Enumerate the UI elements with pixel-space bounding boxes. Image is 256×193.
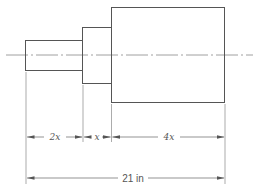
- dimension-label-2x: 2x: [49, 132, 61, 142]
- dimension-total: 21 in: [27, 173, 224, 184]
- dimension-4x: 4x: [113, 132, 225, 142]
- dimension-x: x: [84, 132, 111, 142]
- dimension-2x: 2x: [27, 132, 82, 142]
- small-section: [26, 41, 83, 71]
- middle-section: [83, 28, 112, 84]
- dimension-label-x: x: [94, 132, 99, 142]
- dimension-label-4x: 4x: [163, 132, 175, 142]
- stepped-shaft-drawing: 2x x 4x 21 in: [0, 0, 256, 193]
- dimension-label-total: 21 in: [122, 173, 144, 184]
